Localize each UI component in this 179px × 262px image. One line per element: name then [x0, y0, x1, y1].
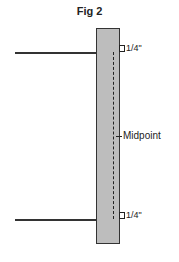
midpoint-label: Midpoint [123, 130, 161, 141]
bottom-horizontal-line [15, 219, 96, 221]
top-offset-marker [119, 45, 125, 52]
dashed-guide-line [113, 52, 114, 219]
figure-title: Fig 2 [0, 5, 179, 17]
top-offset-label: 1/4" [126, 43, 142, 53]
midpoint-tick [116, 136, 122, 137]
bottom-offset-label: 1/4" [126, 210, 142, 220]
bottom-offset-marker [119, 212, 125, 219]
top-horizontal-line [15, 52, 96, 54]
